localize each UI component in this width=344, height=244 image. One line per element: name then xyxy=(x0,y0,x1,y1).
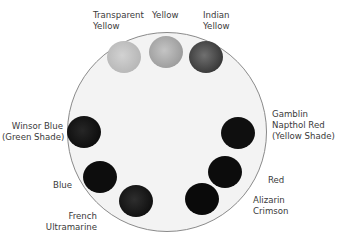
swatch-transparent-yellow xyxy=(107,41,141,73)
label-blue: Blue xyxy=(53,180,72,191)
label-red: Red xyxy=(268,175,284,186)
swatch-french-ultramarine xyxy=(119,185,153,217)
swatch-gamblin-napthol-red xyxy=(221,117,255,149)
swatch-winsor-blue xyxy=(67,116,101,148)
label-winsor-blue: Winsor Blue (Green Shade) xyxy=(2,121,63,143)
swatch-red xyxy=(208,156,242,188)
swatch-yellow xyxy=(149,36,183,68)
label-yellow: Yellow xyxy=(152,10,178,21)
label-alizarin-crimson: Alizarin Crimson xyxy=(253,195,288,217)
label-indian-yellow: Indian Yellow xyxy=(203,10,230,32)
swatch-indian-yellow xyxy=(189,41,223,73)
swatch-alizarin-crimson xyxy=(185,183,219,215)
label-transparent-yellow: Transparent Yellow xyxy=(93,10,144,32)
swatch-blue xyxy=(83,161,117,193)
label-gamblin-napthol-red: Gamblin Napthol Red (Yellow Shade) xyxy=(272,109,335,142)
label-french-ultramarine: French Ultramarine xyxy=(40,211,97,233)
